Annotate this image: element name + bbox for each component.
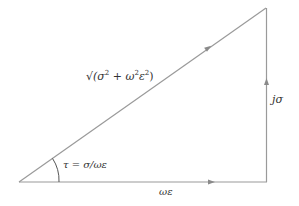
vertical-arrow-icon [264, 78, 269, 85]
close-paren: ) [149, 70, 153, 83]
angle-label: τ = σ/ωε [63, 159, 107, 170]
horizontal-arrow-icon [208, 180, 215, 185]
triangle-diagram [0, 0, 299, 206]
horizontal-label: ωε [159, 186, 173, 197]
vertical-label: jσ [272, 93, 283, 106]
sigma-term: (σ [93, 70, 105, 83]
hypotenuse-label: √(σ2 + ω2ε2) [86, 69, 154, 83]
radical-sign: √ [86, 70, 93, 83]
angle-arc [53, 158, 60, 182]
omega-term: + ω [109, 70, 134, 83]
hypotenuse [19, 8, 266, 182]
